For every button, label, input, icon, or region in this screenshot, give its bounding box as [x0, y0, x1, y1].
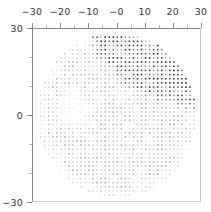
y-tick-label-30: 30 [11, 23, 24, 34]
y-tick--30 [27, 202, 32, 203]
x-tick-label--30: −30 [22, 6, 43, 17]
x-tick-label-30: 30 [195, 6, 208, 17]
y-minor-tick [29, 144, 32, 145]
x-tick-label--0: −0 [109, 6, 123, 17]
x-tick-20 [173, 23, 174, 28]
x-minor-tick [46, 25, 47, 28]
scatter-figure: −30−20−10−0102030 300−30 [0, 0, 211, 212]
x-tick--0 [117, 23, 118, 28]
x-minor-tick [131, 25, 132, 28]
x-minor-tick [74, 25, 75, 28]
x-tick-10 [145, 23, 146, 28]
x-tick--10 [88, 23, 89, 28]
x-tick--20 [60, 23, 61, 28]
y-tick-30 [27, 28, 32, 29]
x-minor-tick [187, 25, 188, 28]
x-minor-tick [159, 25, 160, 28]
y-minor-tick [29, 86, 32, 87]
x-tick-label-20: 20 [167, 6, 180, 17]
x-tick-label-10: 10 [138, 6, 151, 17]
y-minor-tick [29, 173, 32, 174]
x-tick-30 [201, 23, 202, 28]
y-tick-0 [27, 115, 32, 116]
dot-density-canvas [33, 29, 200, 201]
x-minor-tick [102, 25, 103, 28]
x-tick-label--20: −20 [50, 6, 71, 17]
y-tick-label--30: −30 [2, 197, 23, 208]
x-tick-label--10: −10 [78, 6, 99, 17]
x-tick--30 [32, 23, 33, 28]
plot-area [32, 28, 201, 202]
y-tick-label-0: 0 [17, 110, 23, 121]
y-minor-tick [29, 57, 32, 58]
